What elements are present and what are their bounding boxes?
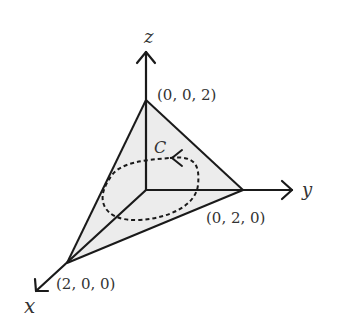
z-vertex-label: (0, 0, 2) [157,86,216,104]
y-vertex-label: (0, 2, 0) [206,209,265,227]
y-axis-label: y [301,179,313,200]
diagram-canvas: z y x (0, 0, 2) (0, 2, 0) (2, 0, 0) C [0,0,337,327]
z-axis-label: z [143,26,154,47]
curve-label: C [154,138,166,157]
x-vertex-label: (2, 0, 0) [56,275,115,293]
x-axis-label: x [24,294,35,318]
